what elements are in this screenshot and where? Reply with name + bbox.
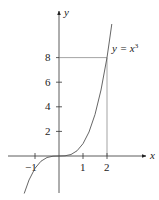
x-tick-label-2: 2 <box>104 161 110 173</box>
x-tick-label-neg1: −1 <box>25 161 37 173</box>
y-axis-label: y <box>63 6 69 18</box>
y-tick-label-4: 4 <box>45 100 51 112</box>
y-tick-label-6: 6 <box>45 76 51 88</box>
x-axis-label: x <box>149 149 155 161</box>
curve-annotation-lhs: y = x <box>111 42 135 54</box>
y-tick-label-2: 2 <box>45 125 51 137</box>
y-tick-label-8: 8 <box>45 51 51 63</box>
curve-annotation-exponent: 3 <box>135 42 139 50</box>
x-tick-label-1: 1 <box>80 161 86 173</box>
curve-annotation: y = x3 <box>111 42 139 54</box>
cubic-function-chart: x y −1 1 2 2 4 6 8 y = x3 <box>0 0 159 200</box>
cubic-curve <box>24 24 112 194</box>
